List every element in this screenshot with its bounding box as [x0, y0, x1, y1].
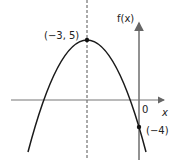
vertex-point	[85, 38, 89, 42]
y-intercept-point	[137, 125, 141, 129]
y-axis-label: f(x)	[117, 13, 134, 24]
origin-label: 0	[142, 104, 148, 115]
parabola-graph: (−3, 5) f(x) 0 x (−4)	[0, 0, 186, 166]
vertex-label: (−3, 5)	[44, 30, 79, 41]
x-axis-label: x	[161, 107, 168, 118]
y-intercept-label: (−4)	[146, 125, 169, 136]
